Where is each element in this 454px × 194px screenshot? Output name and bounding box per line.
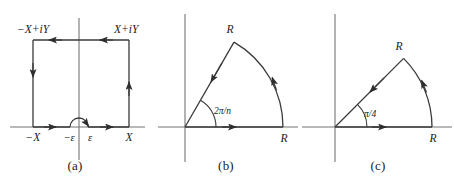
panel-a: −X+iY X+iY −X −ε ε X (a) [0,0,150,194]
label-top-right: X+iY [113,23,140,35]
label-angle: π/4 [364,109,376,119]
label-axis-right: X [124,131,133,143]
label-axis-left: −X [26,131,42,143]
label-radius-axis: R [279,132,287,144]
contour-arc [404,58,432,127]
figure-root: −X+iY X+iY −X −ε ε X (a) R R [0,0,454,194]
caption-a: (a) [0,158,150,174]
label-radius-axis: R [428,132,436,144]
label-minus-epsilon: −ε [63,132,75,143]
panel-c: R R π/4 (c) [302,0,454,194]
arrow-slanted-ray [211,63,222,82]
panel-b: R R 2π/n (b) [150,0,302,194]
contour-arc [234,42,283,127]
label-angle: 2π/n [214,106,231,116]
caption-b: (b) [150,158,302,174]
arrow-slanted-ray [370,78,384,92]
label-radius-ray: R [225,23,233,35]
caption-c: (c) [302,158,454,174]
label-top-left: −X+iY [17,23,51,35]
arrow-arc [422,81,427,93]
label-plus-epsilon: ε [88,132,93,143]
label-radius-ray: R [394,40,402,52]
